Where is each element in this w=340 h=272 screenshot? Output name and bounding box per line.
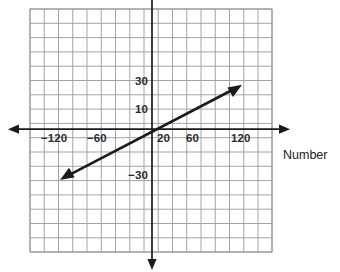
y-tick-label-10: 10 [116, 104, 148, 116]
x-axis-title: Number [283, 149, 327, 162]
x-tick-label-60: 60 [186, 133, 199, 145]
y-tick-label-neg30: −30 [112, 170, 148, 182]
x-tick-label-20: 20 [157, 133, 170, 145]
y-axis [147, 0, 156, 270]
y-tick-label-30: 30 [116, 76, 148, 88]
grid-horizontal-lines [30, 9, 272, 252]
x-tick-label-neg120: −120 [41, 133, 67, 145]
x-axis-right-arrowhead [279, 125, 290, 134]
y-axis-down-arrowhead [147, 259, 156, 270]
coordinate-plane-figure: −120 −60 20 60 120 30 10 −30 Number [0, 0, 340, 272]
x-tick-label-120: 120 [231, 133, 251, 145]
x-tick-label-neg60: −60 [87, 133, 107, 145]
grid-vertical-lines [30, 9, 272, 252]
grid-border [30, 9, 272, 252]
x-axis-left-arrowhead [8, 125, 19, 134]
